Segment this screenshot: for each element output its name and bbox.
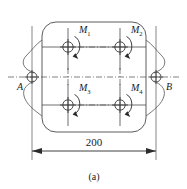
- bolt-M3: M3: [60, 82, 91, 117]
- support-label-A: A: [16, 81, 24, 92]
- engineering-diagram: M1 M2 M3: [0, 0, 187, 189]
- dimension-200: 200: [32, 136, 156, 154]
- bolt-label-M1: M1: [78, 24, 91, 37]
- bolt-label-M3: M3: [78, 82, 91, 95]
- break-curve-A-lower: [24, 81, 42, 116]
- dimension-value: 200: [86, 136, 103, 148]
- break-curve-A-upper: [23, 40, 42, 73]
- bolt-label-M4: M4: [130, 82, 143, 95]
- support-label-B: B: [166, 81, 172, 92]
- bolt-M1: M1: [60, 24, 91, 59]
- bolt-M4: M4: [112, 82, 143, 117]
- support-B: B: [146, 40, 172, 116]
- break-curve-B-upper: [146, 40, 165, 73]
- moment-arc-M4: [127, 95, 132, 114]
- support-A: A: [16, 40, 42, 116]
- moment-arc-M1: [75, 37, 80, 56]
- figure-caption: (a): [88, 171, 99, 183]
- moment-arc-M2: [127, 37, 132, 56]
- figure-container: M1 M2 M3: [0, 0, 187, 189]
- break-curve-B-lower: [146, 81, 164, 116]
- dimension-arrowhead-right: [146, 148, 156, 154]
- bolt-label-M2: M2: [130, 24, 143, 37]
- dimension-arrowhead-left: [32, 148, 42, 154]
- bolt-M2: M2: [112, 24, 143, 59]
- moment-arc-M3: [75, 95, 80, 114]
